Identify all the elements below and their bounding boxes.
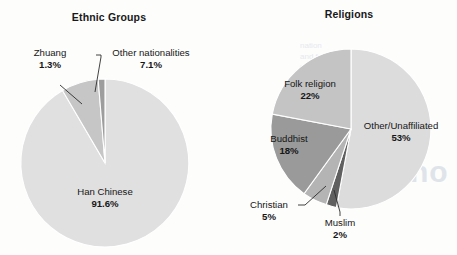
pie-label-other-nationalities: Other nationalities 7.1% xyxy=(101,47,201,70)
pie-label-other-nationalities-name: Other nationalities xyxy=(101,47,201,59)
pie-label-zhuang-pct: 1.3% xyxy=(20,59,80,71)
pie-label-other-unaffiliated: Other/Unaffiliated 53% xyxy=(352,120,450,143)
pie-label-other-nationalities-pct: 7.1% xyxy=(101,59,201,71)
pie-label-han-chinese: Han Chinese 91.6% xyxy=(55,186,155,209)
pie-label-muslim-pct: 2% xyxy=(310,229,370,241)
pie-label-other-unaffiliated-name: Other/Unaffiliated xyxy=(352,120,450,132)
pie-label-han-chinese-name: Han Chinese xyxy=(55,186,155,198)
pie-label-buddhist-name: Buddhist xyxy=(256,133,322,145)
pie-label-christian-name: Christian xyxy=(239,199,299,211)
pie-label-muslim-name: Muslim xyxy=(310,217,370,229)
pie-label-han-chinese-pct: 91.6% xyxy=(55,198,155,210)
pie-label-christian: Christian 5% xyxy=(239,199,299,222)
pie-label-folk-religion: Folk religion 22% xyxy=(272,78,348,101)
pie-label-zhuang: Zhuang 1.3% xyxy=(20,47,80,70)
pie-label-buddhist-pct: 18% xyxy=(256,145,322,157)
pie-label-muslim: Muslim 2% xyxy=(310,217,370,240)
pie-label-folk-religion-name: Folk religion xyxy=(272,78,348,90)
figure-canvas: Econo nation and forms o t cases to from… xyxy=(0,0,457,255)
pie-label-folk-religion-pct: 22% xyxy=(272,90,348,102)
pie-label-other-unaffiliated-pct: 53% xyxy=(352,132,450,144)
pie-label-buddhist: Buddhist 18% xyxy=(256,133,322,156)
pie-ethnic-groups xyxy=(21,55,189,247)
pie-label-christian-pct: 5% xyxy=(239,211,299,223)
pie-label-zhuang-name: Zhuang xyxy=(20,47,80,59)
